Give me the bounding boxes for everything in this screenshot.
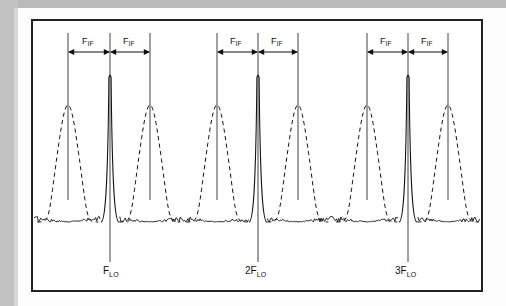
if-label: FIF	[82, 36, 94, 46]
lo-frequency-label: 2FLO	[245, 265, 266, 276]
lo-frequency-label: 3FLO	[395, 265, 416, 276]
scan-top-band	[0, 0, 506, 8]
if-label: FIF	[380, 36, 392, 46]
if-label: FIF	[123, 36, 135, 46]
if-label: FIF	[271, 36, 283, 46]
if-label: FIF	[421, 36, 433, 46]
figure-border	[31, 19, 483, 292]
if-label: FIF	[230, 36, 242, 46]
figure-page: FIF FIF FIF FIF FIF FIF FLO 2FLO 3FLO	[0, 0, 506, 306]
lo-frequency-label: FLO	[103, 265, 119, 276]
